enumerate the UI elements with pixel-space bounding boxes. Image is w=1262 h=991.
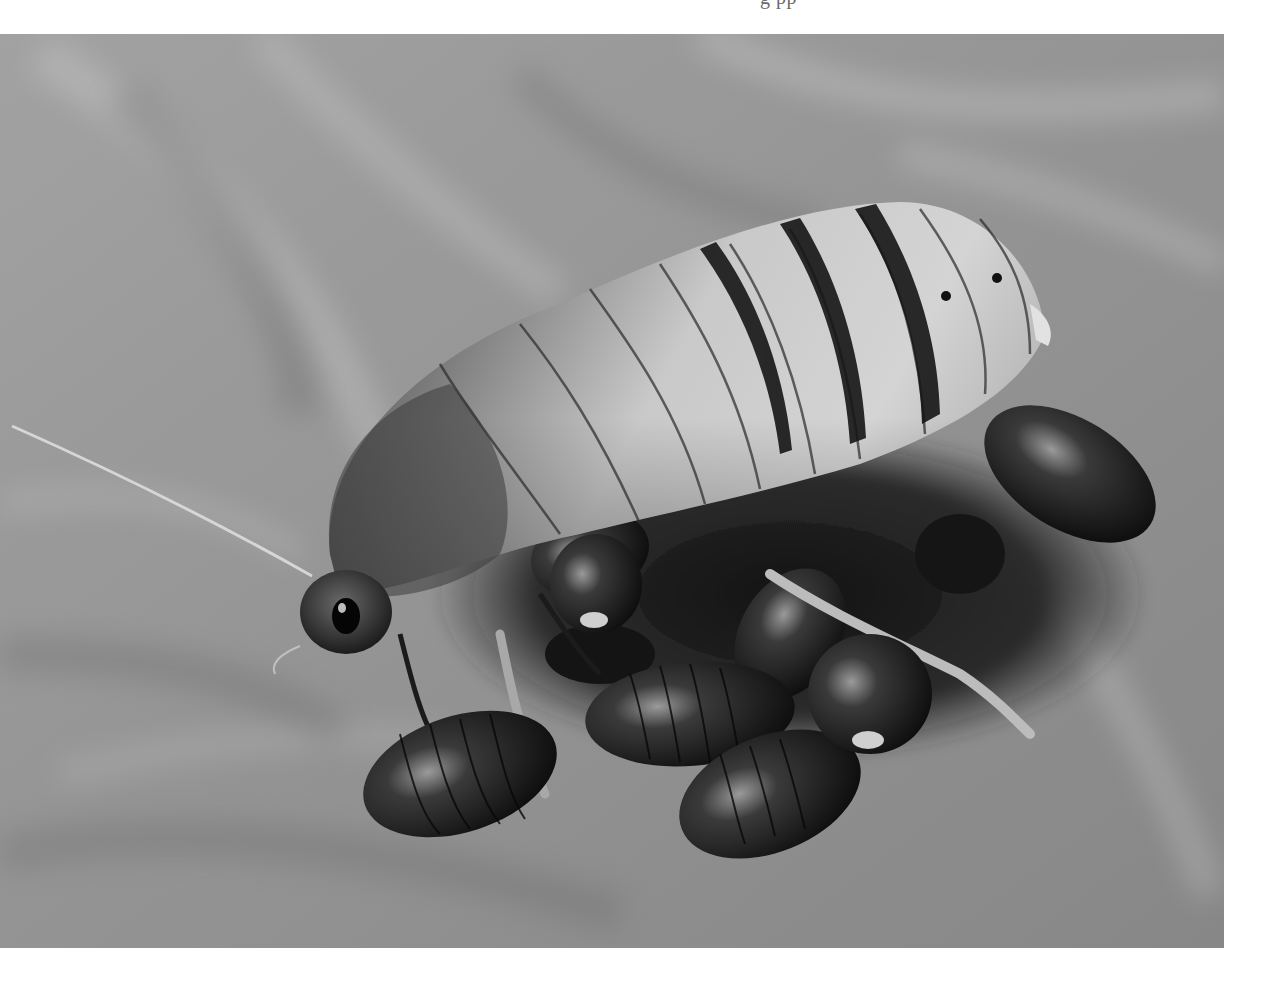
cockroach-illustration <box>0 34 1224 948</box>
spiracle-2 <box>992 273 1002 283</box>
cutoff-caption-text: g pp <box>760 0 1240 9</box>
nymph-under-adult-upright <box>550 534 642 634</box>
adult-eye <box>332 598 360 634</box>
cockroach-photo <box>0 34 1224 948</box>
adult-eye-highlight <box>338 603 346 613</box>
nymph-under-right <box>915 514 1005 594</box>
nymph-front-upright <box>808 634 932 754</box>
spiracle-1 <box>941 291 951 301</box>
